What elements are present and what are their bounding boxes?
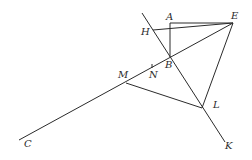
label-m: M xyxy=(117,69,129,80)
label-k: K xyxy=(224,140,233,151)
line-ce xyxy=(19,23,233,140)
label-a: A xyxy=(165,11,173,22)
segment-ml xyxy=(126,83,202,108)
label-h: H xyxy=(140,26,150,37)
segment-he xyxy=(153,23,233,30)
label-l: L xyxy=(212,99,220,110)
geometry-diagram: A E H B N M L K C xyxy=(0,0,252,160)
label-n: N xyxy=(148,69,159,80)
label-c: C xyxy=(24,138,32,149)
label-e: E xyxy=(230,10,239,21)
label-b: B xyxy=(164,59,172,70)
labels-group: A E H B N M L K C xyxy=(24,10,239,151)
segment-el xyxy=(202,23,233,108)
